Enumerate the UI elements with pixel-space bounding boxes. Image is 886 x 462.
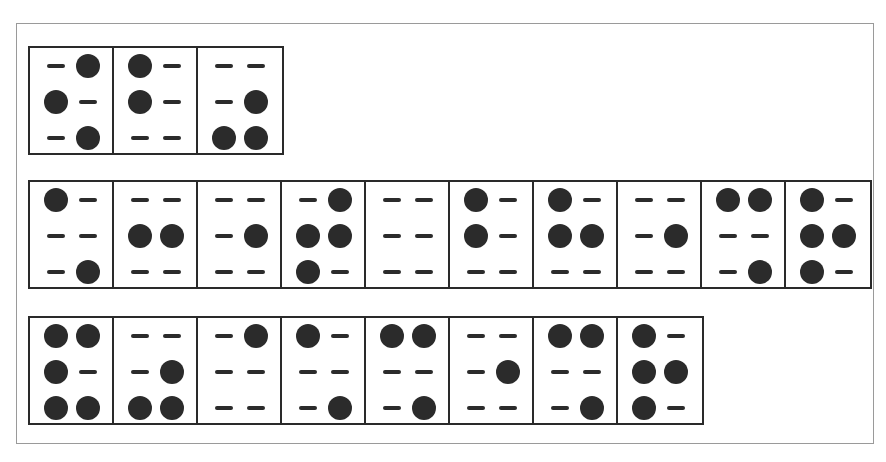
raised-dot-icon: [76, 396, 100, 420]
empty-dash-icon: [331, 334, 349, 338]
raised-dot-icon: [160, 224, 184, 248]
empty-dash-icon: [551, 406, 569, 410]
raised-dot-icon: [580, 396, 604, 420]
empty-dash-icon: [499, 270, 517, 274]
empty-dash-icon: [163, 100, 181, 104]
empty-dash-icon: [247, 406, 265, 410]
braille-cell: [114, 48, 198, 153]
raised-dot-icon: [632, 324, 656, 348]
empty-dash-icon: [79, 100, 97, 104]
raised-dot-icon: [128, 396, 152, 420]
empty-dash-icon: [415, 234, 433, 238]
empty-dash-icon: [131, 136, 149, 140]
braille-cell: [282, 182, 366, 287]
empty-dash-icon: [415, 370, 433, 374]
empty-dash-icon: [215, 270, 233, 274]
empty-dash-icon: [247, 270, 265, 274]
raised-dot-icon: [244, 126, 268, 150]
empty-dash-icon: [215, 100, 233, 104]
raised-dot-icon: [328, 188, 352, 212]
raised-dot-icon: [76, 260, 100, 284]
raised-dot-icon: [328, 224, 352, 248]
raised-dot-icon: [44, 324, 68, 348]
empty-dash-icon: [635, 270, 653, 274]
raised-dot-icon: [464, 224, 488, 248]
empty-dash-icon: [215, 234, 233, 238]
braille-cell: [114, 182, 198, 287]
empty-dash-icon: [163, 334, 181, 338]
empty-dash-icon: [499, 406, 517, 410]
braille-cell: [30, 48, 114, 153]
raised-dot-icon: [160, 360, 184, 384]
raised-dot-icon: [244, 224, 268, 248]
raised-dot-icon: [748, 188, 772, 212]
empty-dash-icon: [751, 234, 769, 238]
empty-dash-icon: [583, 270, 601, 274]
empty-dash-icon: [299, 406, 317, 410]
empty-dash-icon: [583, 370, 601, 374]
braille-cell: [30, 318, 114, 423]
braille-cell: [198, 182, 282, 287]
raised-dot-icon: [412, 396, 436, 420]
braille-cell: [198, 318, 282, 423]
empty-dash-icon: [47, 270, 65, 274]
braille-cell: [366, 318, 450, 423]
raised-dot-icon: [44, 90, 68, 114]
empty-dash-icon: [467, 370, 485, 374]
empty-dash-icon: [499, 234, 517, 238]
empty-dash-icon: [247, 198, 265, 202]
braille-cell: [198, 48, 282, 153]
raised-dot-icon: [76, 126, 100, 150]
empty-dash-icon: [47, 234, 65, 238]
empty-dash-icon: [131, 270, 149, 274]
empty-dash-icon: [131, 370, 149, 374]
raised-dot-icon: [664, 360, 688, 384]
empty-dash-icon: [47, 136, 65, 140]
raised-dot-icon: [44, 188, 68, 212]
raised-dot-icon: [800, 224, 824, 248]
empty-dash-icon: [383, 198, 401, 202]
raised-dot-icon: [800, 260, 824, 284]
empty-dash-icon: [551, 270, 569, 274]
braille-cell: [30, 182, 114, 287]
empty-dash-icon: [299, 370, 317, 374]
empty-dash-icon: [667, 406, 685, 410]
raised-dot-icon: [716, 188, 740, 212]
empty-dash-icon: [467, 406, 485, 410]
braille-row-2: [28, 180, 872, 289]
empty-dash-icon: [383, 406, 401, 410]
raised-dot-icon: [548, 224, 572, 248]
raised-dot-icon: [128, 90, 152, 114]
raised-dot-icon: [548, 324, 572, 348]
empty-dash-icon: [247, 64, 265, 68]
empty-dash-icon: [163, 64, 181, 68]
raised-dot-icon: [412, 324, 436, 348]
braille-cell: [786, 182, 870, 287]
braille-cell: [534, 318, 618, 423]
raised-dot-icon: [580, 324, 604, 348]
empty-dash-icon: [719, 234, 737, 238]
empty-dash-icon: [331, 370, 349, 374]
raised-dot-icon: [328, 396, 352, 420]
braille-cell: [534, 182, 618, 287]
raised-dot-icon: [76, 54, 100, 78]
braille-cell: [450, 318, 534, 423]
empty-dash-icon: [163, 136, 181, 140]
empty-dash-icon: [215, 198, 233, 202]
empty-dash-icon: [467, 334, 485, 338]
empty-dash-icon: [467, 270, 485, 274]
raised-dot-icon: [496, 360, 520, 384]
braille-cell: [702, 182, 786, 287]
empty-dash-icon: [635, 198, 653, 202]
raised-dot-icon: [832, 224, 856, 248]
empty-dash-icon: [635, 234, 653, 238]
raised-dot-icon: [128, 224, 152, 248]
raised-dot-icon: [44, 360, 68, 384]
empty-dash-icon: [583, 198, 601, 202]
braille-row-3: [28, 316, 704, 425]
raised-dot-icon: [632, 396, 656, 420]
empty-dash-icon: [47, 64, 65, 68]
raised-dot-icon: [160, 396, 184, 420]
empty-dash-icon: [247, 370, 265, 374]
empty-dash-icon: [299, 198, 317, 202]
